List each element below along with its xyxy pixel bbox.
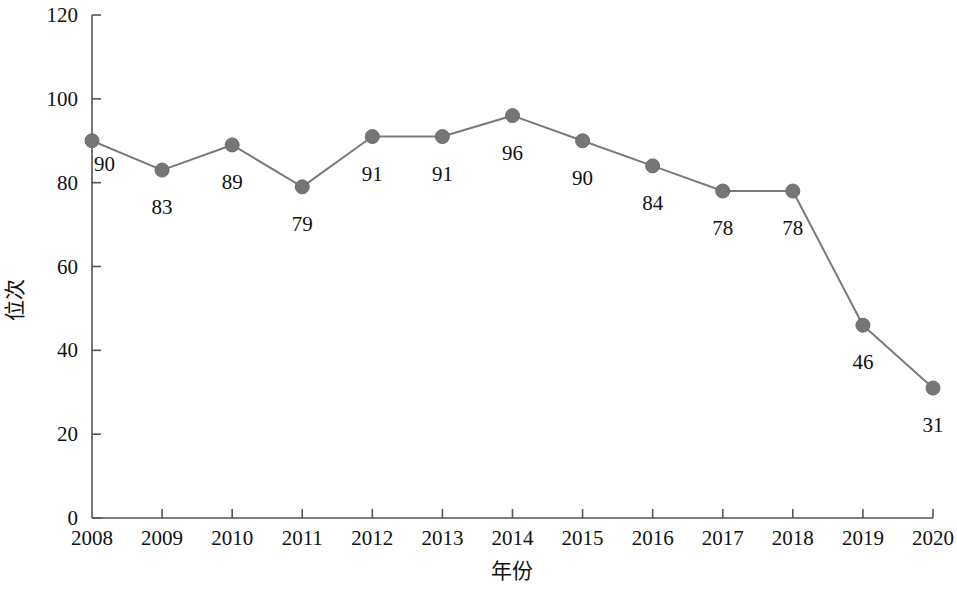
x-axis-tick-label: 2013 [421, 526, 463, 550]
data-point-label: 91 [362, 162, 383, 186]
data-point-label: 83 [152, 195, 173, 219]
y-axis-tick-label: 120 [47, 3, 79, 27]
data-point-marker [435, 130, 449, 144]
data-point-marker [646, 159, 660, 173]
x-axis-tick-label: 2010 [211, 526, 253, 550]
line-chart: 020406080100120 200820092010201120122013… [0, 0, 957, 589]
data-point-label: 31 [923, 413, 944, 437]
y-axis-tick-label: 80 [57, 171, 78, 195]
data-point-label: 89 [222, 170, 243, 194]
x-axis-tick-label: 2016 [632, 526, 674, 550]
data-point-label: 79 [292, 212, 313, 236]
data-point-label: 78 [782, 216, 803, 240]
data-point-marker [926, 381, 940, 395]
data-point-marker [856, 318, 870, 332]
data-point-marker [716, 184, 730, 198]
y-axis-tick-label: 40 [57, 338, 78, 362]
y-axis-tick-label: 100 [47, 87, 79, 111]
data-point-marker [225, 138, 239, 152]
data-point-marker [786, 184, 800, 198]
data-point-label: 46 [852, 350, 873, 374]
chart-axes [92, 15, 933, 518]
chart-data-labels: 90838979919196908478784631 [94, 141, 944, 437]
y-axis-tick-label: 60 [57, 255, 78, 279]
data-point-marker [365, 130, 379, 144]
y-axis-tick-label: 20 [57, 422, 78, 446]
data-point-label: 90 [94, 152, 115, 176]
data-point-label: 96 [502, 141, 523, 165]
x-axis-tick-labels: 2008200920102011201220132014201520162017… [71, 526, 954, 550]
x-axis-tick-label: 2019 [842, 526, 884, 550]
x-axis-tick-label: 2008 [71, 526, 113, 550]
x-axis-tick-label: 2020 [912, 526, 954, 550]
data-point-marker [506, 109, 520, 123]
chart-canvas: 020406080100120 200820092010201120122013… [0, 0, 957, 589]
x-axis-tick-label: 2017 [702, 526, 744, 550]
data-point-marker [295, 180, 309, 194]
data-point-label: 90 [572, 166, 593, 190]
x-axis-tick-label: 2015 [562, 526, 604, 550]
x-axis-tick-label: 2009 [141, 526, 183, 550]
x-axis-tick-label: 2011 [282, 526, 323, 550]
x-axis-tick-label: 2012 [351, 526, 393, 550]
chart-tick-marks [92, 15, 933, 518]
x-axis-title: 年份 [491, 559, 533, 583]
data-point-marker [85, 134, 99, 148]
y-axis-title: 位次 [3, 279, 27, 321]
data-point-label: 78 [712, 216, 733, 240]
x-axis-tick-label: 2014 [492, 526, 535, 550]
y-axis-tick-labels: 020406080100120 [47, 3, 79, 530]
data-point-marker [576, 134, 590, 148]
data-point-label: 84 [642, 191, 664, 215]
data-point-label: 91 [432, 162, 453, 186]
data-point-marker [155, 163, 169, 177]
x-axis-tick-label: 2018 [772, 526, 814, 550]
